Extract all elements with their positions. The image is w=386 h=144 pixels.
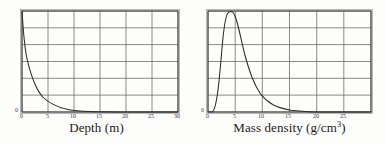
tick-labels-left: 0 0 5 10 15 20 25 30 xyxy=(0,112,193,122)
grid-lines xyxy=(22,11,178,112)
x-tick-label: 10 xyxy=(258,113,264,119)
x-tick-label: 20 xyxy=(122,113,128,119)
x-tick-label: 25 xyxy=(148,113,154,119)
x-tick-label: 20 xyxy=(313,113,319,119)
tick-labels-right: 0 0 5 10 15 20 25 xyxy=(193,112,386,122)
chart-panel-mass-density: Mass density (g/cm3) xyxy=(193,0,386,144)
grid-lines xyxy=(208,11,371,112)
x-axis-label-mass-density: Mass density (g/cm3) xyxy=(193,120,386,136)
y-tick-label-zero-left: 0 xyxy=(15,107,18,113)
x-axis-label-mass-density-prefix: Mass density (g/cm xyxy=(233,120,337,135)
chart-panel-depth: Depth (m) xyxy=(0,0,193,144)
x-axis-label-depth: Depth (m) xyxy=(0,120,193,136)
x-tick-label: 0 xyxy=(206,113,209,119)
x-tick-label: 25 xyxy=(340,113,346,119)
x-tick-label: 15 xyxy=(96,113,102,119)
x-tick-label: 5 xyxy=(233,113,236,119)
x-tick-label: 30 xyxy=(174,113,180,119)
figure-container: Depth (m) xyxy=(0,0,386,144)
x-tick-label: 15 xyxy=(285,113,291,119)
y-tick-label-zero-right: 0 xyxy=(201,107,204,113)
x-tick-label: 0 xyxy=(20,113,23,119)
x-tick-label: 10 xyxy=(70,113,76,119)
x-tick-label: 5 xyxy=(46,113,49,119)
x-axis-label-mass-density-suffix: ) xyxy=(341,120,345,135)
